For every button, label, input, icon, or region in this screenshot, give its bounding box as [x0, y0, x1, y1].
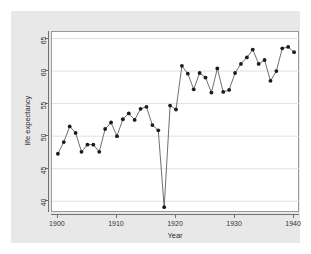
data-point — [150, 123, 154, 127]
data-point — [180, 64, 184, 68]
data-point — [168, 104, 172, 108]
x-tick-label: 1910 — [102, 220, 130, 227]
y-tick-label: 60 — [40, 69, 47, 87]
x-tick-mark — [57, 215, 58, 218]
data-point — [127, 111, 131, 115]
data-point — [227, 88, 231, 92]
data-point — [174, 108, 178, 112]
data-point — [86, 143, 90, 147]
data-point — [192, 87, 196, 91]
data-point — [139, 107, 143, 111]
data-point — [251, 48, 255, 52]
data-point — [74, 131, 78, 135]
data-point — [204, 76, 208, 80]
x-tick-label: 1940 — [279, 220, 307, 227]
data-point — [233, 71, 237, 75]
y-axis-title: life expectancy — [23, 88, 32, 152]
y-tick-label: 40 — [40, 199, 47, 217]
data-point — [121, 117, 125, 121]
data-point — [156, 128, 160, 132]
y-tick-label: 55 — [40, 101, 47, 119]
y-tick-label: 45 — [40, 166, 47, 184]
data-point — [269, 79, 273, 83]
data-point — [221, 90, 225, 94]
data-point — [245, 55, 249, 59]
data-point — [80, 150, 84, 154]
data-point — [280, 46, 284, 50]
data-point — [68, 125, 72, 129]
x-tick-label: 1920 — [161, 220, 189, 227]
data-point — [239, 62, 243, 66]
data-point — [115, 134, 119, 138]
data-point — [292, 50, 296, 54]
data-point — [133, 118, 137, 122]
data-point — [109, 121, 113, 125]
graph-panel: 404550556065 19001910192019301940 life e… — [11, 11, 300, 243]
x-tick-label: 1900 — [43, 220, 71, 227]
data-point — [97, 150, 101, 154]
data-point — [286, 45, 290, 49]
plot-area — [51, 31, 299, 212]
data-point — [274, 69, 278, 73]
x-tick-mark — [293, 215, 294, 218]
x-tick-mark — [116, 215, 117, 218]
data-point — [215, 67, 219, 71]
data-point — [257, 62, 261, 66]
y-tick-label: 50 — [40, 134, 47, 152]
data-point — [62, 140, 66, 144]
chart-figure: 404550556065 19001910192019301940 life e… — [0, 0, 311, 254]
x-tick-mark — [234, 215, 235, 218]
x-axis-title: Year — [145, 231, 205, 240]
x-tick-label: 1930 — [220, 220, 248, 227]
data-point — [186, 72, 190, 76]
chart-plot-svg — [52, 32, 300, 213]
data-point — [56, 152, 60, 156]
data-point — [91, 143, 95, 147]
data-point — [263, 58, 267, 62]
x-tick-mark — [175, 215, 176, 218]
y-axis-line — [48, 31, 49, 212]
data-point — [210, 91, 214, 95]
data-point — [198, 71, 202, 75]
y-tick-label: 65 — [40, 36, 47, 54]
data-point — [162, 205, 166, 209]
data-point — [103, 127, 107, 131]
data-point — [145, 105, 149, 109]
